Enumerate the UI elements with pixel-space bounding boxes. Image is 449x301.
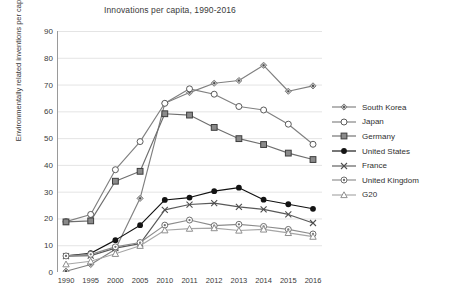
x-tick-label: 1995 xyxy=(82,276,99,285)
series-marker-open-circle xyxy=(310,141,316,147)
series-marker-filled-square xyxy=(310,157,316,163)
series-marker-open-circle xyxy=(187,86,193,92)
y-tick-label: 20 xyxy=(31,214,53,223)
series-marker-filled-square xyxy=(88,218,94,224)
series-marker-diamond xyxy=(63,268,69,272)
series-marker-diamond xyxy=(341,104,347,110)
y-tick-label: 40 xyxy=(31,160,53,169)
series-marker-filled-circle xyxy=(211,188,217,194)
series-g20 xyxy=(63,225,316,267)
series-marker-dot-circle xyxy=(112,244,118,250)
legend-label: United States xyxy=(360,147,410,156)
series-marker-filled-circle xyxy=(137,222,143,228)
legend-item-france[interactable]: France xyxy=(330,158,448,173)
series-marker-dot-circle xyxy=(63,253,69,259)
legend-label: France xyxy=(360,161,387,170)
legend-label: G20 xyxy=(360,190,377,199)
series-marker-filled-square xyxy=(187,112,193,118)
legend-marker-dot-circle-icon xyxy=(330,173,360,187)
series-marker-filled-square xyxy=(137,168,143,174)
y-tick-label: 60 xyxy=(31,107,53,116)
legend-label: Japan xyxy=(360,117,384,126)
data-series-layer xyxy=(57,31,322,272)
series-marker-open-circle xyxy=(211,91,217,97)
series-marker-open-circle xyxy=(236,104,242,110)
series-marker-dot-circle xyxy=(187,217,193,223)
series-marker-diamond xyxy=(137,195,143,201)
chart-legend: South KoreaJapanGermanyUnited StatesFran… xyxy=(330,100,448,202)
y-tick-label: 0 xyxy=(31,268,53,277)
series-marker-filled-square xyxy=(162,111,168,117)
y-tick-label: 30 xyxy=(31,187,53,196)
legend-item-g20[interactable]: G20 xyxy=(330,188,448,203)
legend-marker-filled-square-icon xyxy=(330,129,360,143)
series-marker-filled-square xyxy=(113,178,119,184)
series-marker-filled-square xyxy=(236,136,242,142)
y-tick-label: 10 xyxy=(31,241,53,250)
y-axis-ticks: 9080706050403020100 xyxy=(29,31,53,272)
series-marker-diamond xyxy=(236,77,242,83)
legend-label: Germany xyxy=(360,132,395,141)
x-tick-label: 2000 xyxy=(107,276,124,285)
series-marker-cross xyxy=(310,220,316,226)
legend-marker-diamond-icon xyxy=(330,100,360,114)
series-marker-filled-square xyxy=(341,134,347,140)
x-tick-label: 2011 xyxy=(181,276,197,285)
legend-label: South Korea xyxy=(360,103,406,112)
x-tick-label: 2016 xyxy=(305,276,322,285)
y-tick-label: 50 xyxy=(31,134,53,143)
series-marker-filled-circle xyxy=(162,197,168,203)
y-tick-label: 70 xyxy=(31,80,53,89)
series-marker-dot-circle xyxy=(88,251,94,257)
series-marker-filled-circle xyxy=(341,148,347,154)
chart-container: Innovations per capita, 1990-2016 Enviro… xyxy=(0,0,449,301)
legend-marker-open-circle-icon xyxy=(330,115,360,129)
series-marker-filled-circle xyxy=(187,195,193,201)
y-tick-label: 80 xyxy=(31,53,53,62)
series-marker-filled-circle xyxy=(285,201,291,207)
chart-title: Innovations per capita, 1990-2016 xyxy=(0,5,340,15)
legend-item-united-states[interactable]: United States xyxy=(330,144,448,159)
x-tick-label: 2012 xyxy=(206,276,223,285)
x-tick-label: 2015 xyxy=(280,276,297,285)
series-marker-diamond xyxy=(211,80,217,86)
x-axis-ticks: 1990199520002005201020112012201320142015… xyxy=(57,276,322,292)
y-tick-label: 90 xyxy=(31,27,53,36)
series-marker-diamond xyxy=(310,83,316,89)
series-marker-filled-square xyxy=(211,125,217,131)
legend-label: United Kingdom xyxy=(360,176,419,185)
series-line xyxy=(66,114,313,222)
series-germany xyxy=(63,111,316,225)
x-tick-label: 2014 xyxy=(255,276,272,285)
legend-item-germany[interactable]: Germany xyxy=(330,129,448,144)
series-marker-filled-square xyxy=(261,142,267,148)
legend-item-japan[interactable]: Japan xyxy=(330,115,448,130)
legend-item-south-korea[interactable]: South Korea xyxy=(330,100,448,115)
series-south-korea xyxy=(63,62,316,272)
x-tick-label: 1990 xyxy=(58,276,75,285)
series-marker-dot-circle xyxy=(341,177,347,183)
legend-marker-filled-circle-icon xyxy=(330,144,360,158)
y-axis-label: Environmentally related inventions per c… xyxy=(14,0,23,177)
series-marker-open-circle xyxy=(112,167,118,173)
series-marker-filled-circle xyxy=(261,197,267,203)
series-marker-filled-square xyxy=(63,219,69,225)
series-marker-open-circle xyxy=(162,100,168,106)
series-marker-filled-square xyxy=(285,150,291,156)
legend-marker-open-triangle-icon xyxy=(330,188,360,202)
x-tick-label: 2005 xyxy=(132,276,149,285)
x-tick-label: 2013 xyxy=(231,276,248,285)
legend-item-united-kingdom[interactable]: United Kingdom xyxy=(330,173,448,188)
x-tick-label: 2010 xyxy=(156,276,173,285)
series-marker-open-circle xyxy=(261,107,267,113)
series-marker-open-circle xyxy=(137,139,143,145)
series-marker-filled-circle xyxy=(236,185,242,191)
series-marker-open-circle xyxy=(341,119,347,125)
plot-area xyxy=(57,31,322,272)
series-marker-open-circle xyxy=(285,121,291,127)
series-marker-filled-circle xyxy=(113,237,119,243)
series-marker-filled-circle xyxy=(310,206,316,212)
legend-marker-cross-icon xyxy=(330,159,360,173)
